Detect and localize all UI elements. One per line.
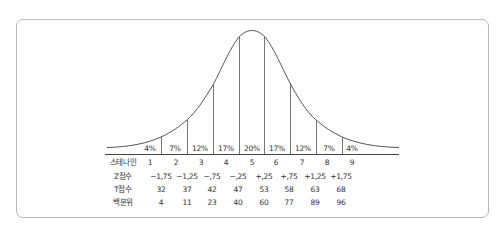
normal-curve-chart bbox=[0, 0, 502, 230]
percentile-value: 40 bbox=[234, 199, 243, 207]
t-score-value: 37 bbox=[183, 186, 192, 194]
percentile-value: 60 bbox=[260, 199, 269, 207]
percent-label: 12% bbox=[295, 145, 311, 153]
z-score-value: −1,75 bbox=[150, 173, 171, 181]
percent-label: 7% bbox=[169, 145, 180, 153]
z-score-value: −,75 bbox=[203, 173, 220, 181]
t-score-value: 42 bbox=[208, 186, 217, 194]
percent-label: 7% bbox=[323, 145, 334, 153]
t-score-value: 63 bbox=[311, 186, 320, 194]
z-score-value: +1,25 bbox=[304, 173, 325, 181]
percent-label: 17% bbox=[218, 145, 234, 153]
stanine-value: 3 bbox=[199, 159, 203, 167]
t-score-value: 53 bbox=[260, 186, 269, 194]
percentile-value: 23 bbox=[208, 199, 217, 207]
percentile-value: 11 bbox=[183, 199, 192, 207]
percentile-value: 96 bbox=[337, 199, 346, 207]
z-score-value: −,25 bbox=[229, 173, 246, 181]
percent-label: 12% bbox=[192, 145, 208, 153]
t-score-value: 32 bbox=[157, 186, 166, 194]
t-score-value: 47 bbox=[234, 186, 243, 194]
percent-label: 4% bbox=[144, 145, 155, 153]
row-header-percentile: 백분위 bbox=[113, 199, 133, 207]
stanine-value: 4 bbox=[224, 159, 228, 167]
percent-label: 20% bbox=[244, 145, 260, 153]
z-score-value: −1,25 bbox=[176, 173, 197, 181]
z-score-value: +,25 bbox=[255, 173, 272, 181]
stanine-value: 6 bbox=[274, 159, 278, 167]
row-header-stanine: 스테나인 bbox=[110, 159, 137, 167]
z-score-value: +,75 bbox=[280, 173, 297, 181]
stanine-value: 9 bbox=[350, 159, 354, 167]
bell-curve bbox=[107, 31, 399, 148]
percentile-value: 89 bbox=[311, 199, 320, 207]
stanine-value: 7 bbox=[300, 159, 304, 167]
percentile-value: 4 bbox=[159, 199, 163, 207]
row-header-t: T점수 bbox=[114, 186, 132, 194]
percent-label: 4% bbox=[346, 145, 357, 153]
stanine-value: 2 bbox=[174, 159, 178, 167]
stanine-value: 5 bbox=[250, 159, 254, 167]
percentile-value: 77 bbox=[285, 199, 294, 207]
stanine-value: 1 bbox=[148, 159, 152, 167]
t-score-value: 68 bbox=[337, 186, 346, 194]
stanine-value: 8 bbox=[325, 159, 329, 167]
percent-label: 17% bbox=[269, 145, 285, 153]
row-header-z: Z점수 bbox=[114, 173, 132, 181]
z-score-value: +1,75 bbox=[330, 173, 351, 181]
t-score-value: 58 bbox=[285, 186, 294, 194]
band-dividers bbox=[162, 37, 343, 154]
